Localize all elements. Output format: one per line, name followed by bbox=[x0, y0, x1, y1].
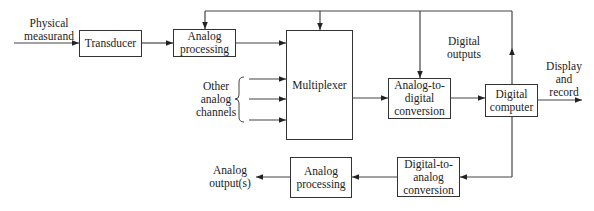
digital-outputs-label: Digital outputs bbox=[438, 35, 490, 61]
other-analog-channels-label: Other analog channels bbox=[196, 80, 236, 119]
adc-label: Analog-to- digital conversion bbox=[394, 79, 444, 118]
analog-processing-output-label: Analog processing bbox=[296, 165, 345, 191]
analog-processing-output-block: Analog processing bbox=[290, 157, 352, 198]
dac-label: Digital-to- analog conversion bbox=[403, 158, 453, 197]
transducer-label: Transducer bbox=[85, 37, 136, 50]
multiplexer-label: Multiplexer bbox=[292, 79, 346, 92]
analog-outputs-label: Analog output(s) bbox=[204, 164, 256, 190]
display-record-label: Display and record bbox=[540, 60, 588, 99]
multiplexer-block: Multiplexer bbox=[286, 30, 353, 140]
transducer-block: Transducer bbox=[79, 30, 142, 57]
digital-computer-block: Digital computer bbox=[485, 84, 538, 117]
adc-block: Analog-to- digital conversion bbox=[388, 78, 451, 119]
analog-processing-input-label: Analog processing bbox=[180, 30, 229, 56]
dac-block: Digital-to- analog conversion bbox=[397, 157, 460, 197]
physical-measurand-label: Physical measurand bbox=[14, 17, 84, 43]
digital-computer-label: Digital computer bbox=[490, 88, 533, 114]
analog-processing-input-block: Analog processing bbox=[173, 29, 236, 57]
